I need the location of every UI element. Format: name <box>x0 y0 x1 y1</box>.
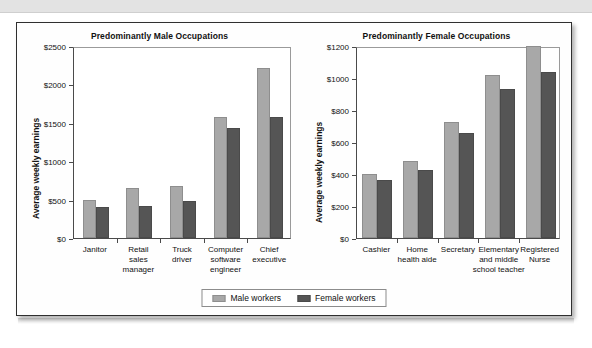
bar-female <box>377 180 392 238</box>
page-top-strip <box>0 0 592 13</box>
bar-female <box>227 128 240 238</box>
bar-male <box>257 68 270 238</box>
y-tick-label: $1200 <box>327 43 349 52</box>
y-tick-mark <box>69 124 73 125</box>
y-tick-label: $2000 <box>44 81 66 90</box>
bars-layer <box>74 48 290 238</box>
male-swatch-icon <box>212 295 225 302</box>
x-tick-mark <box>519 239 520 243</box>
y-tick-mark <box>69 47 73 48</box>
y-tick-label: $500 <box>48 196 66 205</box>
female-swatch-icon <box>297 295 310 302</box>
bar-male <box>126 188 139 238</box>
charts-row: Predominantly Male Occupations Average w… <box>17 23 571 285</box>
bar-male <box>444 122 459 238</box>
y-tick-label: $400 <box>331 171 349 180</box>
y-tick-mark <box>352 175 356 176</box>
y-tick-label: $600 <box>331 139 349 148</box>
plot-area <box>73 47 291 239</box>
bar-male <box>362 174 377 238</box>
bar-female <box>459 133 474 238</box>
bar-female <box>541 72 556 238</box>
bar-male <box>83 200 96 238</box>
y-tick-mark <box>352 111 356 112</box>
y-tick-label: $2500 <box>44 43 66 52</box>
x-tick-mark <box>117 239 118 243</box>
y-tick-mark <box>69 201 73 202</box>
chart-title: Predominantly Male Occupations <box>17 31 302 41</box>
y-tick-label: $1000 <box>44 158 66 167</box>
bar-male <box>214 117 227 238</box>
x-tick-mark <box>204 239 205 243</box>
bar-female <box>139 206 152 238</box>
x-tick-mark <box>478 239 479 243</box>
y-tick-label: $800 <box>331 107 349 116</box>
y-tick-label: $0 <box>57 235 66 244</box>
legend-item-female: Female workers <box>297 293 375 303</box>
y-axis-title: Average weekly earnings <box>314 122 324 223</box>
y-axis-title: Average weekly earnings <box>31 118 41 219</box>
legend-label: Female workers <box>315 293 375 303</box>
y-tick-label: $200 <box>331 203 349 212</box>
y-tick-mark <box>69 162 73 163</box>
y-tick-label: $1000 <box>327 75 349 84</box>
page-bottom-edge <box>18 318 574 324</box>
y-tick-mark <box>352 207 356 208</box>
y-tick-mark <box>352 47 356 48</box>
y-tick-label: $1500 <box>44 119 66 128</box>
chart-female-occupations: Predominantly Female Occupations Average… <box>302 23 571 285</box>
x-category-label: Registered Nurse <box>509 245 570 265</box>
bars-layer <box>357 48 559 238</box>
bar-male <box>403 161 418 238</box>
chart-male-occupations: Predominantly Male Occupations Average w… <box>17 23 302 285</box>
legend-label: Male workers <box>230 293 281 303</box>
figure-panel: Predominantly Male Occupations Average w… <box>16 22 572 316</box>
chart-title: Predominantly Female Occupations <box>302 31 571 41</box>
bar-female <box>183 201 196 238</box>
y-tick-mark <box>352 239 356 240</box>
bar-female <box>418 170 433 238</box>
bar-male <box>526 46 541 238</box>
bar-female <box>270 117 283 238</box>
x-tick-mark <box>438 239 439 243</box>
bar-male <box>485 75 500 238</box>
plot-area <box>356 47 560 239</box>
bar-male <box>170 186 183 238</box>
x-tick-mark <box>397 239 398 243</box>
x-tick-mark <box>247 239 248 243</box>
y-tick-mark <box>352 143 356 144</box>
y-tick-mark <box>69 85 73 86</box>
bar-female <box>96 207 109 238</box>
y-tick-label: $0 <box>340 235 349 244</box>
legend-item-male: Male workers <box>212 293 281 303</box>
y-tick-mark <box>352 79 356 80</box>
legend: Male workers Female workers <box>201 289 386 307</box>
x-tick-mark <box>160 239 161 243</box>
x-category-label: Chief executive <box>237 245 302 265</box>
bar-female <box>500 89 515 238</box>
y-tick-mark <box>69 239 73 240</box>
